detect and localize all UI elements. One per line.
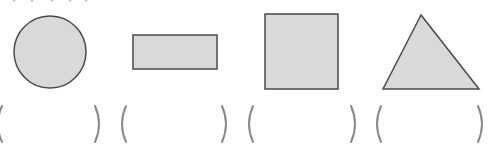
- right-paren: [478, 106, 482, 142]
- shapes-worksheet: [0, 0, 493, 155]
- answer-blank-triangle[interactable]: [377, 104, 482, 144]
- left-paren: [249, 106, 253, 142]
- circle-shape: [14, 16, 86, 88]
- right-paren: [222, 106, 226, 142]
- answer-blank-circle[interactable]: [0, 104, 99, 144]
- answer-blank-square[interactable]: [249, 104, 355, 144]
- clipped-top-marks: [13, 0, 88, 2]
- right-paren: [351, 106, 355, 142]
- left-paren: [0, 106, 2, 142]
- left-paren: [377, 106, 381, 142]
- triangle-shape: [383, 15, 479, 89]
- left-paren: [122, 106, 126, 142]
- right-paren: [95, 106, 99, 142]
- rectangle-shape: [133, 35, 217, 69]
- answer-blank-rectangle[interactable]: [122, 104, 226, 144]
- square-shape: [265, 14, 338, 89]
